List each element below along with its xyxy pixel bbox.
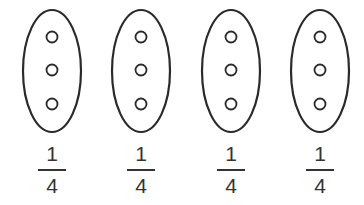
fraction-label-3: 1 4	[211, 143, 251, 196]
numerator: 1	[32, 143, 72, 167]
oval	[291, 10, 349, 132]
group-3	[202, 10, 260, 132]
fraction-bar	[38, 169, 66, 171]
fraction-label-2: 1 4	[121, 143, 161, 196]
oval	[202, 10, 260, 132]
denominator: 4	[300, 175, 340, 196]
fraction-bar	[306, 169, 334, 171]
dot	[47, 65, 58, 76]
group-2	[112, 10, 170, 132]
fraction-label-1: 1 4	[32, 143, 72, 196]
dot	[136, 32, 147, 43]
fraction-bar	[127, 169, 155, 171]
denominator: 4	[211, 175, 251, 196]
denominator: 4	[121, 175, 161, 196]
dot	[315, 99, 326, 110]
dot	[226, 99, 237, 110]
dot	[315, 65, 326, 76]
oval	[112, 10, 170, 132]
fraction-label-4: 1 4	[300, 143, 340, 196]
group-1	[23, 10, 81, 132]
denominator: 4	[32, 175, 72, 196]
dot	[47, 32, 58, 43]
numerator: 1	[121, 143, 161, 167]
numerator: 1	[300, 143, 340, 167]
dot	[315, 32, 326, 43]
fraction-bar	[217, 169, 245, 171]
dot	[136, 99, 147, 110]
dot	[226, 65, 237, 76]
dot	[136, 65, 147, 76]
oval	[23, 10, 81, 132]
dot	[226, 32, 237, 43]
dot	[47, 99, 58, 110]
numerator: 1	[211, 143, 251, 167]
group-4	[291, 10, 349, 132]
